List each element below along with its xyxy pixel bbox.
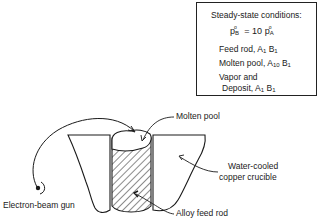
electron-gun-dot: [36, 186, 40, 190]
molten-pool-label: Molten pool: [176, 112, 220, 121]
crucible-label-line2: copper crucible: [219, 173, 277, 182]
crucible-label-line1: Water-cooled: [228, 162, 278, 171]
evaporation-apparatus-drawing: [0, 0, 321, 224]
right-crucible-wall: [153, 135, 205, 211]
electron-beam-gun-label: Electron-beam gun: [3, 201, 75, 210]
molten-pool: [112, 130, 151, 151]
feed-rod-label: Alloy feed rod: [176, 209, 228, 218]
